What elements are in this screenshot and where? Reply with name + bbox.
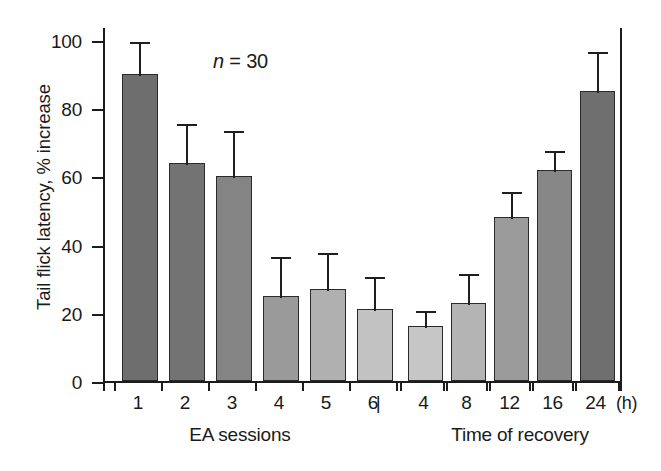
error-bar-cap [459,274,479,276]
x-axis-tick [446,383,448,391]
error-bar-cap [224,131,244,133]
y-axis-tick [92,109,103,111]
x-axis-tick-label: 24 [571,392,621,414]
x-axis-tick [255,383,257,391]
group-separator-mark: | [368,392,388,414]
x-axis-tick [396,383,398,391]
y-axis-tick-label: 40 [38,237,82,256]
bar [216,176,252,381]
error-bar-stem [139,42,141,76]
x-axis-group-label-ea-sessions: EA sessions [150,424,330,446]
sample-size-value: = 30 [224,50,268,72]
bar [263,296,299,381]
x-axis-tick [302,383,304,391]
error-bar-stem [425,311,427,328]
x-axis-tick [208,383,210,391]
y-axis-tick-label: 20 [38,305,82,324]
bar [310,289,346,381]
error-bar-stem [327,253,329,291]
error-bar-stem [597,52,599,93]
error-bar-cap [130,42,150,44]
bar [122,74,158,381]
bar [494,217,529,381]
x-axis-tick-label: 1 [113,392,163,414]
error-bar-stem [554,151,556,171]
bar [357,309,393,381]
x-axis-tick [620,383,622,391]
x-axis-tick [161,383,163,391]
x-axis-unit-label: (h) [616,392,637,414]
error-bar-cap [177,124,197,126]
error-bar-cap [416,311,436,313]
bar [408,326,443,381]
y-axis-tick-label: 100 [38,32,82,51]
x-axis-tick-label: 2 [160,392,210,414]
y-axis-tick [92,382,103,384]
error-bar-cap [365,277,385,279]
error-bar-stem [374,277,376,311]
x-axis-tick [529,383,531,391]
sample-size-annotation: n = 30 [213,51,268,71]
x-axis-tick [443,383,445,391]
x-axis-tick [103,383,105,391]
bar [169,163,205,381]
bar [451,303,486,381]
error-bar-stem [468,274,470,305]
x-axis-tick [400,383,402,391]
error-bar-stem [186,124,188,165]
y-axis-tick [92,314,103,316]
x-axis-tick [575,383,577,391]
x-axis-tick-label: 4 [254,392,304,414]
x-axis-tick [114,383,116,391]
y-axis-tick [92,41,103,43]
y-axis-tick [92,246,103,248]
error-bar-stem [280,257,282,298]
error-bar-cap [588,52,608,54]
chart-figure: Tail flick latency, % increase 020406080… [0,0,661,471]
error-bar-cap [545,151,565,153]
x-axis-tick-label: 5 [301,392,351,414]
bar [537,170,572,381]
y-axis-tick-label: 80 [38,100,82,119]
x-axis-tick-label: 3 [207,392,257,414]
bar [580,91,615,381]
y-axis-tick-label: 0 [38,373,82,392]
y-axis-tick-label: 60 [38,168,82,187]
x-axis-tick [349,383,351,391]
sample-size-symbol: n [213,50,224,72]
y-axis-tick [92,177,103,179]
x-axis-group-label-time-of-recovery: Time of recovery [415,424,625,446]
x-axis-tick [532,383,534,391]
error-bar-stem [233,131,235,179]
x-axis-tick [572,383,574,391]
error-bar-cap [502,192,522,194]
x-axis-tick [486,383,488,391]
error-bar-cap [271,257,291,259]
x-axis-tick [489,383,491,391]
error-bar-stem [511,192,513,219]
error-bar-cap [318,253,338,255]
plot-area [103,28,622,383]
